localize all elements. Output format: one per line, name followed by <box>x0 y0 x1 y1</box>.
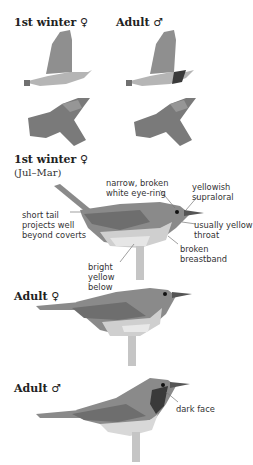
perched-bird-adult-female <box>36 288 192 366</box>
annotation-throat: usually yellow throat <box>194 220 253 240</box>
annotation-tail: short tail projects well beyond coverts <box>22 210 86 240</box>
perched-bird-adult-male <box>36 378 190 462</box>
annotation-below: bright yellow below <box>88 262 115 292</box>
annotation-eye-ring: narrow, broken white eye-ring <box>106 178 168 198</box>
flight-bird-female-side <box>24 30 92 86</box>
annotation-supraloral: yellowish supraloral <box>192 182 234 202</box>
flight-bird-male-spread <box>134 98 196 146</box>
flight-bird-female-spread <box>28 98 90 146</box>
annotation-breastband: broken breastband <box>180 244 227 264</box>
annotation-dark-face: dark face <box>176 404 215 414</box>
flight-bird-male-side <box>126 30 194 86</box>
